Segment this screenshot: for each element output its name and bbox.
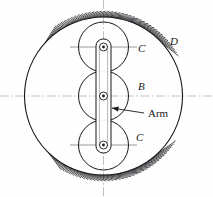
label-arm: Arm [148, 107, 169, 119]
label-ring-gear-D: D [169, 35, 178, 47]
pivot-center-dot [102, 95, 105, 98]
arm-leader-arrowhead [112, 106, 119, 111]
gear-train-diagram: D C B C Arm [0, 0, 213, 197]
pivot-center-dot [102, 144, 105, 147]
hatching-bottom [49, 141, 176, 181]
arm-leader [112, 106, 144, 113]
label-gear-bottom-C: C [136, 131, 144, 143]
label-gear-top-C: C [138, 42, 146, 54]
pivot-center-dot [102, 46, 105, 49]
label-gear-center-B: B [138, 80, 145, 92]
figure-page: D C B C Arm [0, 0, 213, 197]
